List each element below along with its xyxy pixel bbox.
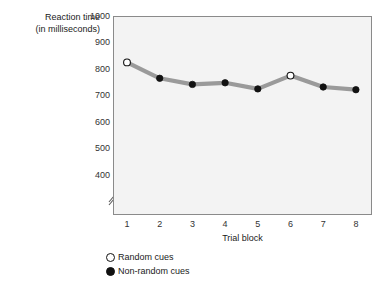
data-point-block-4 (222, 80, 228, 86)
legend-label: Random cues (118, 250, 174, 264)
data-point-block-7 (320, 84, 326, 90)
y-axis-tick-900: 900 (82, 38, 110, 47)
y-axis-tick-800: 800 (82, 65, 110, 74)
data-point-block-5 (255, 86, 261, 92)
legend-label: Non-random cues (118, 264, 190, 278)
x-axis-tick-1: 1 (124, 219, 129, 229)
chart-figure: Reaction time (in milliseconds) 10009008… (0, 0, 391, 293)
data-point-block-3 (189, 81, 195, 87)
plot-series-layer (114, 17, 371, 214)
x-axis-tick-5: 5 (255, 219, 260, 229)
y-axis-tick-400: 400 (82, 171, 110, 180)
legend-filled-circle-icon (106, 267, 115, 276)
data-point-block-2 (157, 75, 163, 81)
x-axis-tick-labels: 12345678 (0, 219, 391, 231)
x-axis-tick-6: 6 (288, 219, 293, 229)
x-axis-title: Trial block (113, 233, 372, 243)
y-axis-tick-600: 600 (82, 118, 110, 127)
legend-item-2: Non-random cues (106, 264, 190, 278)
plot-area (113, 16, 372, 215)
legend-open-circle-icon (106, 253, 115, 262)
y-axis-tick-700: 700 (82, 91, 110, 100)
chart-legend: Random cuesNon-random cues (106, 250, 190, 278)
x-axis-tick-7: 7 (321, 219, 326, 229)
reaction-time-series (114, 17, 371, 214)
data-point-block-6 (287, 72, 294, 79)
legend-item-1: Random cues (106, 250, 190, 264)
data-point-block-8 (353, 87, 359, 93)
y-axis-tick-1000: 1000 (82, 12, 110, 21)
x-axis-tick-4: 4 (223, 219, 228, 229)
y-axis-tick-500: 500 (82, 144, 110, 153)
x-axis-tick-2: 2 (157, 219, 162, 229)
data-point-block-1 (124, 59, 131, 66)
x-axis-tick-8: 8 (353, 219, 358, 229)
x-axis-tick-3: 3 (190, 219, 195, 229)
